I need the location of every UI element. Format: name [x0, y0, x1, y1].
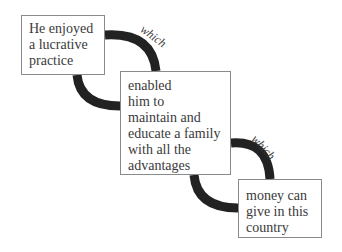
clause-text: with all the	[128, 142, 223, 158]
clause-text: a lucrative	[29, 37, 97, 53]
clause-text: educate a family	[128, 126, 223, 142]
clause-text: country	[246, 220, 314, 236]
connector-arc-2-lower	[194, 175, 238, 208]
clause-text: maintain and	[128, 110, 223, 126]
clause-box-3: money can give in this country	[238, 179, 322, 238]
clause-text: He enjoyed	[29, 21, 97, 37]
clause-text: practice	[29, 53, 97, 69]
clause-box-1: He enjoyed a lucrative practice	[21, 15, 105, 75]
clause-text: advantages	[128, 158, 223, 174]
clause-text: him to	[128, 94, 223, 110]
clause-box-2: enabled him to maintain and educate a fa…	[120, 71, 231, 175]
clause-text: enabled	[128, 78, 223, 94]
clause-text: money can	[246, 188, 314, 204]
connector-arc-1-lower	[77, 75, 120, 106]
clause-text: give in this	[246, 204, 314, 220]
